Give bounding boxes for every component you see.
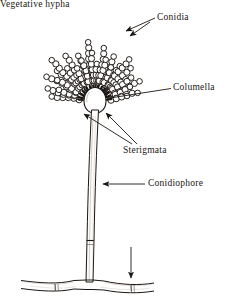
conidium bbox=[45, 86, 51, 92]
conidiophore-stalk bbox=[86, 110, 99, 282]
conidium bbox=[108, 65, 114, 71]
conidium bbox=[49, 94, 55, 100]
leader-conidia-secondary bbox=[130, 22, 150, 36]
conidium bbox=[54, 77, 60, 83]
conidium bbox=[89, 50, 95, 56]
label-columella: Columella bbox=[173, 83, 215, 93]
conidium bbox=[101, 51, 107, 57]
conidiophore-figure: Conidia Columella Sterigmata Conidiophor… bbox=[0, 0, 231, 306]
conidium bbox=[128, 75, 134, 81]
label-sterigmata: Sterigmata bbox=[123, 146, 167, 156]
conidium bbox=[56, 87, 62, 93]
conidium bbox=[135, 90, 141, 96]
conidium bbox=[49, 57, 55, 63]
conidium bbox=[88, 55, 94, 61]
leader-sterigmata-right bbox=[106, 113, 137, 144]
conidium bbox=[63, 53, 69, 59]
conidium bbox=[86, 45, 92, 51]
label-conidia: Conidia bbox=[157, 13, 189, 23]
conidium bbox=[74, 66, 80, 72]
conidium bbox=[127, 84, 133, 90]
conidium bbox=[101, 45, 107, 51]
conidium bbox=[128, 65, 134, 71]
conidiophore-diagram bbox=[0, 0, 231, 306]
sterigma bbox=[78, 100, 83, 101]
conidium bbox=[103, 57, 109, 63]
conidium bbox=[126, 57, 132, 63]
conidium bbox=[85, 39, 91, 45]
conidium bbox=[111, 54, 117, 60]
conidium bbox=[79, 58, 85, 64]
sterigma bbox=[107, 99, 112, 100]
label-vegetative-hypha: Vegetative hypha bbox=[0, 0, 70, 10]
conidium bbox=[44, 74, 50, 80]
conidium bbox=[137, 79, 143, 85]
label-conidiophore: Conidiophore bbox=[148, 179, 203, 189]
columella-vesicle bbox=[84, 88, 106, 114]
